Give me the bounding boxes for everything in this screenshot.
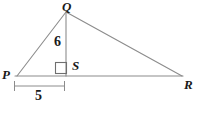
measurement-label-altitude: 6 — [54, 35, 61, 49]
segment-qr — [66, 12, 182, 76]
vertex-label-s: S — [72, 59, 79, 72]
vertex-label-q: Q — [62, 0, 71, 13]
measurement-label-base: 5 — [35, 89, 42, 103]
triangle-diagram-svg — [0, 0, 198, 114]
right-angle-marker-icon — [56, 63, 67, 74]
geometry-figure: Q P S R 6 5 — [0, 0, 198, 114]
vertex-label-r: R — [184, 78, 193, 91]
vertex-label-p: P — [2, 68, 10, 81]
